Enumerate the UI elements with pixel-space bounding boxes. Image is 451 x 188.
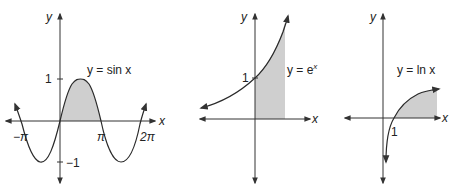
exp-graph: y x 1 y = ex: [200, 10, 319, 183]
sin-graph: y x y = sin x 1 −1 −π π 2π: [6, 10, 166, 183]
sin-tick-label-y1: 1: [45, 72, 52, 86]
ln-y-axis-label: y: [369, 10, 377, 24]
sin-equation-label: y = sin x: [87, 63, 131, 77]
ln-equation-label: y = ln x: [397, 63, 435, 77]
ln-x-axis-label: x: [441, 111, 449, 125]
sin-y-axis-label: y: [45, 10, 53, 24]
exp-shaded-area: [255, 22, 285, 119]
exp-equation-label: y = ex: [287, 62, 318, 77]
calculus-graphs-figure: y x y = sin x 1 −1 −π π 2π y x 1 y = ex: [0, 0, 451, 188]
exp-tick-label-y1: 1: [242, 71, 249, 85]
ln-shaded-area: [394, 89, 437, 118]
exp-equation-exponent: x: [312, 62, 318, 71]
exp-x-axis-label: x: [311, 112, 319, 126]
sin-x-axis-label: x: [158, 114, 166, 128]
sin-tick-label-pi: π: [97, 130, 106, 144]
ln-tick-label-x1: 1: [391, 125, 398, 139]
sin-tick-label-neg-pi: −π: [13, 130, 29, 144]
ln-graph: y x y = ln x 1: [345, 10, 449, 183]
exp-equation-base: y = e: [287, 63, 314, 77]
sin-tick-label-yneg1: −1: [66, 156, 80, 170]
exp-y-axis-label: y: [240, 10, 248, 24]
sin-tick-label-2pi: 2π: [139, 130, 156, 144]
